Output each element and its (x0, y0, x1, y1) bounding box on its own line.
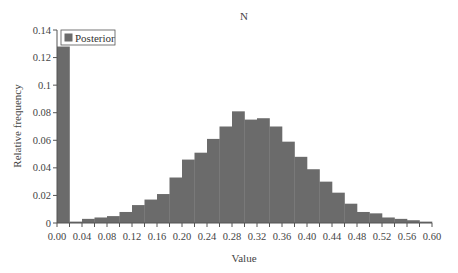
y-axis-title: Relative frequency (11, 84, 23, 168)
legend-label: Posterior (75, 32, 115, 44)
histogram-bar (57, 47, 70, 223)
histogram-bar (145, 200, 158, 223)
x-tick-label: 0.00 (48, 231, 66, 242)
histogram-chart: N 00.020.040.060.080.10.120.14 0.000.040… (0, 0, 458, 273)
histogram-bar (320, 182, 333, 223)
legend-swatch (65, 34, 73, 42)
histogram-bar (132, 205, 145, 223)
y-axis: 00.020.040.060.080.10.120.14 (33, 25, 57, 229)
histogram-bar (395, 219, 408, 223)
y-tick-label: 0.12 (33, 52, 51, 63)
histogram-bar (307, 169, 320, 223)
y-tick-label: 0.14 (33, 25, 52, 36)
x-axis-title: Value (231, 252, 256, 264)
histogram-bar (220, 127, 233, 224)
histogram-bar (95, 217, 108, 223)
y-tick-label: 0.04 (33, 162, 52, 173)
x-tick-label: 0.20 (173, 231, 191, 242)
bars (57, 47, 432, 223)
histogram-bar (345, 204, 358, 223)
histogram-bar (295, 157, 308, 223)
histogram-bar (382, 217, 395, 223)
y-tick-label: 0 (46, 218, 51, 229)
x-tick-label: 0.16 (148, 231, 166, 242)
y-tick-label: 0.08 (33, 107, 51, 118)
histogram-bar (282, 142, 295, 223)
y-tick-label: 0.1 (38, 80, 51, 91)
histogram-bar (232, 111, 245, 223)
x-tick-label: 0.24 (198, 231, 217, 242)
histogram-bar (107, 216, 120, 223)
histogram-bar (207, 139, 220, 223)
x-tick-label: 0.04 (73, 231, 92, 242)
x-tick-label: 0.44 (323, 231, 342, 242)
x-tick-label: 0.48 (348, 231, 366, 242)
x-tick-label: 0.28 (223, 231, 241, 242)
histogram-bar (357, 212, 370, 223)
y-tick-label: 0.02 (33, 190, 51, 201)
histogram-bar (270, 127, 283, 224)
x-tick-label: 0.12 (123, 231, 141, 242)
histogram-bar (182, 160, 195, 223)
x-tick-label: 0.40 (298, 231, 316, 242)
x-tick-label: 0.60 (423, 231, 441, 242)
x-tick-label: 0.56 (398, 231, 416, 242)
histogram-bar (257, 118, 270, 223)
histogram-bar (157, 194, 170, 223)
x-tick-label: 0.32 (248, 231, 266, 242)
histogram-bar (245, 120, 258, 223)
histogram-bar (170, 178, 183, 223)
y-tick-label: 0.06 (33, 135, 51, 146)
histogram-bar (195, 153, 208, 223)
histogram-bar (82, 219, 95, 223)
x-tick-label: 0.08 (98, 231, 116, 242)
x-tick-label: 0.52 (373, 231, 391, 242)
x-axis: 0.000.040.080.120.160.200.240.280.320.36… (48, 223, 441, 242)
histogram-bar (370, 213, 383, 223)
histogram-bar (332, 193, 345, 223)
chart-title: N (240, 10, 248, 22)
legend: Posterior (61, 30, 115, 45)
x-tick-label: 0.36 (273, 231, 291, 242)
histogram-bar (120, 212, 133, 223)
